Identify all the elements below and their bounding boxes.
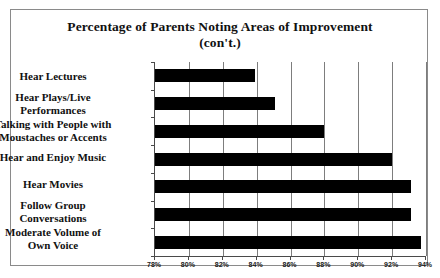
bar — [155, 97, 275, 110]
x-tick-label: 92% — [384, 261, 398, 268]
y-minor-tick — [151, 145, 154, 146]
bar — [155, 236, 421, 249]
x-tick-mark — [154, 256, 155, 260]
x-tick-mark — [391, 256, 392, 260]
gridline — [426, 62, 427, 256]
bar — [155, 180, 411, 193]
y-minor-tick — [151, 201, 154, 202]
y-minor-tick — [151, 62, 154, 63]
category-label-line: Hear Movies — [0, 178, 147, 191]
bar — [155, 153, 392, 166]
category-label: Talking with People with Moustaches or A… — [0, 118, 147, 143]
category-label-line: Moderate Volume of — [0, 226, 147, 239]
x-tick-label: 90% — [350, 261, 364, 268]
y-minor-tick — [151, 90, 154, 91]
x-tick-label: 88% — [316, 261, 330, 268]
chart-title-line-1: Percentage of Parents Noting Areas of Im… — [11, 19, 429, 35]
x-tick-label: 78% — [147, 261, 161, 268]
category-label-line: Own Voice — [0, 238, 147, 251]
bar — [155, 208, 411, 221]
x-tick-label: 82% — [215, 261, 229, 268]
y-minor-tick — [151, 228, 154, 229]
category-label-line: Talking with People with — [0, 118, 147, 131]
x-tick-mark — [290, 256, 291, 260]
category-label: Hear and Enjoy Music — [0, 151, 147, 164]
plot-wrap: Hear Lectures Hear Plays/Live Performanc… — [11, 58, 429, 267]
category-label-line: Follow Group — [0, 199, 147, 212]
x-tick-mark — [425, 256, 426, 260]
category-label: Hear Movies — [0, 178, 147, 191]
category-label: Hear Lectures — [0, 70, 147, 83]
bar — [155, 69, 255, 82]
plot-area — [154, 62, 425, 256]
chart-frame: Percentage of Parents Noting Areas of Im… — [10, 9, 428, 266]
y-minor-tick — [151, 173, 154, 174]
category-label-line: Hear and Enjoy Music — [0, 151, 147, 164]
category-label-line: Conversations — [0, 211, 147, 224]
gridline — [392, 62, 393, 256]
category-label-line: Moustaches or Accents — [0, 130, 147, 143]
chart-title: Percentage of Parents Noting Areas of Im… — [11, 19, 429, 51]
bar — [155, 125, 324, 138]
x-tick-mark — [323, 256, 324, 260]
x-tick-label: 86% — [282, 261, 296, 268]
y-minor-tick — [151, 256, 154, 257]
y-minor-tick — [151, 117, 154, 118]
x-tick-label: 94% — [418, 261, 432, 268]
x-tick-mark — [222, 256, 223, 260]
x-tick-mark — [357, 256, 358, 260]
x-tick-mark — [188, 256, 189, 260]
category-label: Hear Plays/Live Performances — [0, 91, 147, 116]
x-tick-mark — [256, 256, 257, 260]
category-label: Moderate Volume of Own Voice — [0, 226, 147, 251]
category-label-line: Hear Lectures — [0, 70, 147, 83]
chart-title-line-2: (con't.) — [11, 35, 429, 51]
x-tick-label: 80% — [181, 261, 195, 268]
x-tick-label: 84% — [249, 261, 263, 268]
category-label-line: Performances — [0, 103, 147, 116]
category-label-line: Hear Plays/Live — [0, 91, 147, 104]
category-label: Follow Group Conversations — [0, 199, 147, 224]
